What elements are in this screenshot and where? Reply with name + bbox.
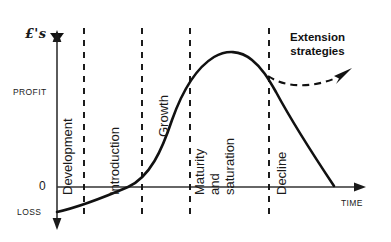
- y-axis-arrow-up: [53, 30, 62, 42]
- stage-label-introduction: Introduction: [108, 127, 121, 195]
- stage-label-decline: Decline: [275, 152, 288, 195]
- y-axis-title: £'s: [25, 27, 46, 40]
- y-axis-label-profit: PROFIT: [13, 88, 47, 97]
- stage-label-growth: Growth: [157, 95, 170, 137]
- y-axis-label-zero: 0: [39, 180, 46, 192]
- callout-line-1: Extension: [290, 30, 345, 44]
- y-axis-label-loss: LOSS: [17, 208, 41, 217]
- callout-line-2: strategies: [290, 44, 345, 58]
- stage-label-maturity: Maturity: [193, 149, 206, 195]
- extension-strategies-arrow: [268, 76, 336, 85]
- stage-label-saturation: saturation: [223, 138, 236, 195]
- y-axis-arrow-down: [53, 218, 62, 230]
- extension-strategies-arrowhead: [334, 68, 352, 84]
- x-axis-title: TIME: [341, 199, 363, 208]
- callout-extension-strategies: Extension strategies: [290, 30, 345, 59]
- x-axis-arrow-right: [354, 182, 366, 191]
- stage-label-development: Development: [61, 118, 74, 195]
- stage-label-and: and: [208, 173, 221, 195]
- product-life-cycle-diagram: £'s PROFIT 0 LOSS TIME Development Intro…: [0, 0, 391, 242]
